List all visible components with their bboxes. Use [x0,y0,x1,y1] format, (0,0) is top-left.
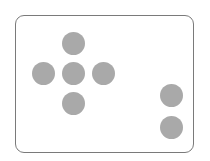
dpad-right-button[interactable] [92,62,115,85]
dpad-down-button[interactable] [62,92,85,115]
action-button-a[interactable] [160,84,183,107]
dpad-up-button[interactable] [62,32,85,55]
canvas [0,0,210,161]
action-button-b[interactable] [160,116,183,139]
dpad-left-button[interactable] [32,62,55,85]
dpad-center-button[interactable] [62,62,85,85]
